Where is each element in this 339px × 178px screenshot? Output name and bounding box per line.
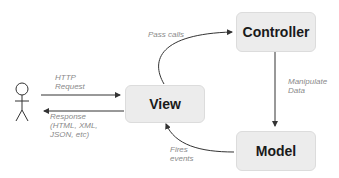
controller-label: Controller xyxy=(243,24,310,40)
manipulate-data-label: Manipulate Data xyxy=(288,77,327,95)
model-label: Model xyxy=(256,143,296,159)
user-actor-icon xyxy=(15,83,29,121)
fires-events-label: Fires events xyxy=(170,145,194,163)
response-label: Response (HTML, XML, JSON, etc) xyxy=(50,112,98,139)
view-label: View xyxy=(149,96,181,112)
view-node: View xyxy=(125,85,205,123)
model-node: Model xyxy=(236,131,316,171)
pass-calls-label: Pass calls xyxy=(148,30,184,39)
pass-calls-arrow xyxy=(159,32,232,84)
controller-node: Controller xyxy=(236,12,316,52)
http-request-label: HTTP Request xyxy=(55,73,85,91)
